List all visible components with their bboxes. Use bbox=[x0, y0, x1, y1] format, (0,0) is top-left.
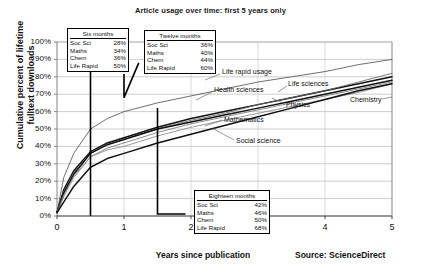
y-tick-10: 10% bbox=[17, 194, 51, 203]
y-tick-60: 60% bbox=[17, 107, 51, 116]
annotation-row: Maths40% bbox=[147, 49, 213, 57]
annotation-row-label: Life Rapid bbox=[147, 64, 193, 72]
curve-label-mathematics: Mathematics bbox=[224, 116, 264, 123]
annotation-row: Soc Sci42% bbox=[197, 201, 267, 209]
annotation-row-value: 40% bbox=[193, 49, 213, 57]
annotation-row-label: Life Rapid bbox=[70, 62, 109, 70]
y-tick-80: 80% bbox=[17, 72, 51, 81]
annotation-row: Chem50% bbox=[197, 216, 267, 224]
y-tick-30: 30% bbox=[17, 159, 51, 168]
curve-label-life-sciences: Life sciences bbox=[288, 80, 328, 87]
annotation-row-label: Life Rapid bbox=[197, 224, 245, 232]
curve-label-physics: Physics bbox=[286, 101, 310, 108]
annotation-row-value: 60% bbox=[193, 64, 213, 72]
annotation-box-eighteen-months: Eighteen monthsSoc Sci42%Maths46%Chem50%… bbox=[194, 190, 270, 234]
annotation-row: Maths34% bbox=[70, 47, 126, 55]
chart-container: Article usage over time: first 5 years o… bbox=[0, 0, 421, 269]
y-tick-100: 100% bbox=[17, 37, 51, 46]
y-tick-20: 20% bbox=[17, 176, 51, 185]
curve-label-social-science: Social science bbox=[236, 137, 281, 144]
annotation-row-value: 34% bbox=[109, 47, 126, 55]
x-tick-4: 4 bbox=[315, 222, 335, 232]
annotation-row: Life Rapid50% bbox=[70, 62, 126, 70]
annotation-row: Chem44% bbox=[147, 56, 213, 64]
annotation-row-label: Chem bbox=[197, 216, 245, 224]
annotation-box-twelve-months: Twelve monthsSoc Sci36%Maths40%Chem44%Li… bbox=[144, 30, 216, 74]
annotation-row-value: 44% bbox=[193, 56, 213, 64]
annotation-row-value: 50% bbox=[245, 216, 267, 224]
annotation-row-value: 36% bbox=[193, 41, 213, 49]
annotation-row-label: Maths bbox=[147, 49, 193, 57]
annotation-row-label: Maths bbox=[197, 209, 245, 217]
y-tick-90: 90% bbox=[17, 54, 51, 63]
annotation-title: Eighteen months bbox=[197, 192, 267, 201]
annotation-row-label: Soc Sci bbox=[197, 201, 245, 209]
annotation-row-label: Chem bbox=[70, 54, 109, 62]
annotation-row-label: Soc Sci bbox=[70, 39, 109, 47]
annotation-title: Six months bbox=[70, 30, 126, 39]
x-tick-0: 0 bbox=[47, 222, 67, 232]
annotation-row-label: Chem bbox=[147, 56, 193, 64]
annotation-row: Soc Sci36% bbox=[147, 41, 213, 49]
annotation-row: Life Rapid60% bbox=[147, 64, 213, 72]
annotation-row-label: Soc Sci bbox=[147, 41, 193, 49]
annotation-row: Soc Sci28% bbox=[70, 39, 126, 47]
annotation-row-label: Maths bbox=[70, 47, 109, 55]
annotation-row-value: 36% bbox=[109, 54, 126, 62]
curve-label-chemistry: Chemistry bbox=[350, 96, 382, 103]
annotation-row: Maths46% bbox=[197, 209, 267, 217]
annotation-row-value: 68% bbox=[245, 224, 267, 232]
annotation-row-value: 42% bbox=[245, 201, 267, 209]
annotation-title: Twelve months bbox=[147, 32, 213, 41]
annotation-box-six-months: Six monthsSoc Sci28%Maths34%Chem36%Life … bbox=[67, 28, 129, 72]
annotation-row-value: 46% bbox=[245, 209, 267, 217]
annotation-row: Life Rapid68% bbox=[197, 224, 267, 232]
y-tick-0: 0% bbox=[17, 211, 51, 220]
x-tick-5: 5 bbox=[382, 222, 402, 232]
source-note: Source: ScienceDirect bbox=[295, 250, 419, 260]
annotation-row-value: 50% bbox=[109, 62, 126, 70]
x-axis-label: Years since publication bbox=[118, 250, 288, 260]
curve-label-health-sciences: Health sciences bbox=[214, 86, 263, 93]
y-tick-40: 40% bbox=[17, 141, 51, 150]
x-tick-1: 1 bbox=[114, 222, 134, 232]
y-tick-70: 70% bbox=[17, 89, 51, 98]
y-tick-50: 50% bbox=[17, 124, 51, 133]
curve-label-life-rapid-usage: Life rapid usage bbox=[222, 68, 272, 75]
annotation-row: Chem36% bbox=[70, 54, 126, 62]
annotation-row-value: 28% bbox=[109, 39, 126, 47]
